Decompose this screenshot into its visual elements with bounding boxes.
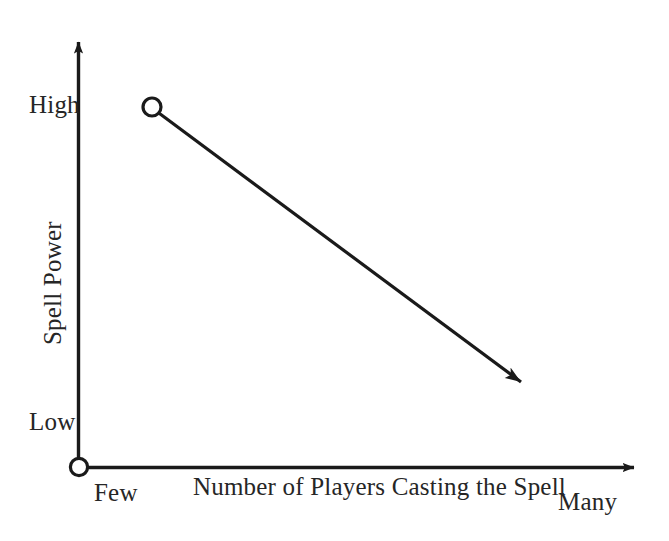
x-axis-tick-few: Few [94,480,138,505]
clipped-caption-text [0,530,669,541]
y-axis-title: Spell Power [40,221,65,345]
y-axis-tick-high: High [29,92,80,117]
origin-marker-icon [70,458,87,475]
y-axis-tick-low: Low [29,409,75,434]
data-trend-line [160,114,522,383]
chart-canvas [0,0,669,541]
figure-container: High Low Spell Power Few Many Number of … [0,0,669,541]
x-axis-tick-many: Many [558,489,617,514]
data-start-marker-icon [143,98,161,116]
x-axis-title: Number of Players Casting the Spell [193,474,566,499]
